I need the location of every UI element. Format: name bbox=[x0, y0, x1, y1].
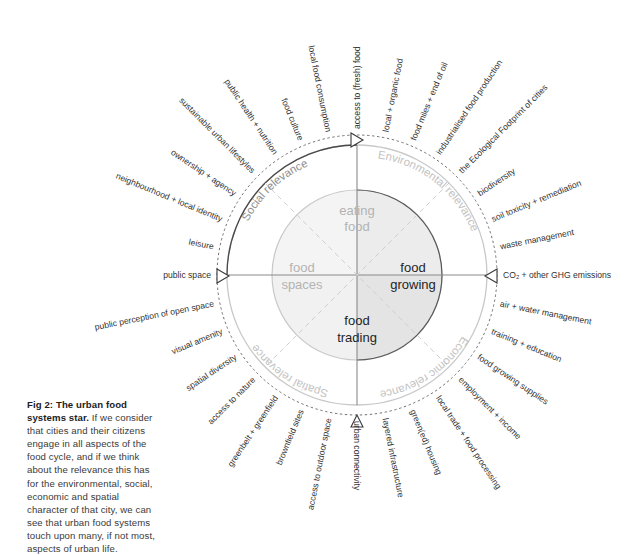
spoke-label: access to outdoor space bbox=[305, 417, 333, 511]
spoke-label: food miles + end of oil bbox=[408, 61, 449, 142]
spoke-label: biodiversity bbox=[476, 165, 518, 198]
spoke-label: layered infrastructure bbox=[381, 417, 407, 498]
spoke-label: green(ed) housing bbox=[408, 408, 444, 476]
spoke-label: local food consumption bbox=[306, 45, 333, 133]
caption-body: If we consider that cities and their cit… bbox=[27, 412, 155, 554]
quadrant-label-spatial: Spatial relevance bbox=[249, 342, 329, 400]
spoke-label: brownfield sites bbox=[274, 408, 306, 467]
spoke-label: public perception of open space bbox=[94, 299, 215, 333]
spoke-label: local + organic food bbox=[381, 57, 405, 132]
spoke-label: food culture bbox=[279, 97, 306, 143]
spoke-label: access to nature bbox=[206, 375, 258, 427]
spoke-label: CO₂ + other GHG emissions bbox=[503, 270, 611, 280]
core-label-food-growing-line1: food bbox=[400, 260, 425, 275]
figure-caption: Fig 2: The urban food systems star. If w… bbox=[27, 398, 161, 555]
spoke-label: access to (fresh) food bbox=[352, 46, 362, 129]
core-label-eating-food-line1: eating bbox=[339, 203, 374, 218]
spoke-label: urban connectivity bbox=[352, 421, 362, 491]
spoke-label: visual amenity bbox=[170, 326, 225, 356]
spoke-label: waste management bbox=[498, 227, 575, 252]
core-label-food-spaces-line1: food bbox=[289, 260, 314, 275]
spoke-label: leisure bbox=[188, 237, 215, 252]
core-label-eating-food-line2: food bbox=[344, 219, 369, 234]
spoke-label: training + education bbox=[490, 326, 564, 364]
spoke-label: public space bbox=[163, 270, 211, 280]
core-label-food-trading-line1: food bbox=[344, 313, 369, 328]
core-label-food-trading-line2: trading bbox=[337, 330, 377, 345]
spoke-label: air + water management bbox=[499, 299, 593, 327]
spoke-label: soil toxicity + remediation bbox=[490, 178, 583, 224]
core-label-food-growing-line2: growing bbox=[390, 277, 436, 292]
core-label-food-spaces-line2: spaces bbox=[281, 277, 323, 292]
spoke-label: ownership + agency bbox=[169, 147, 239, 198]
spoke-label: spatial diversity bbox=[184, 352, 239, 393]
